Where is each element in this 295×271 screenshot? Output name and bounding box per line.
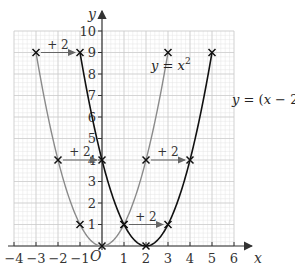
shift-label: + 2 <box>69 145 91 159</box>
x-tick-label: −2 <box>48 251 67 266</box>
y-tick-label: 2 <box>88 196 96 211</box>
shift-label: + 2 <box>135 210 157 224</box>
curve-labels: y = x2y = (x − 2)2 <box>150 56 295 107</box>
x-tick-label: −3 <box>26 251 45 266</box>
x-tick-label: 2 <box>142 251 150 266</box>
parabola-translation-chart: xyO −4−3−2−112345612345678910 + 2+ 2+ 2+… <box>0 0 295 271</box>
x-tick-label: −1 <box>70 251 89 266</box>
curve-label-1: y = (x − 2)2 <box>231 90 295 107</box>
grid-major <box>14 31 234 246</box>
x-tick-label: 5 <box>208 251 216 266</box>
y-tick-label: 9 <box>88 45 96 60</box>
x-tick-label: 1 <box>120 251 128 266</box>
axes: xyO <box>8 6 262 266</box>
curve-label-0: y = x2 <box>150 56 191 73</box>
x-axis-label: x <box>254 250 262 266</box>
x-tick-label: 4 <box>186 251 194 266</box>
x-tick-label: 3 <box>164 251 172 266</box>
y-axis-label: y <box>87 6 97 22</box>
x-tick-label: 6 <box>230 251 238 266</box>
y-tick-label: 10 <box>79 24 96 39</box>
shift-label: + 2 <box>157 145 179 159</box>
y-tick-label: 3 <box>88 174 96 189</box>
y-tick-label: 8 <box>88 67 96 82</box>
shift-label: + 2 <box>47 38 69 52</box>
x-tick-label: −4 <box>4 251 23 266</box>
origin-label: O <box>90 248 102 264</box>
y-tick-label: 5 <box>88 131 96 146</box>
y-tick-label: 1 <box>88 217 96 232</box>
